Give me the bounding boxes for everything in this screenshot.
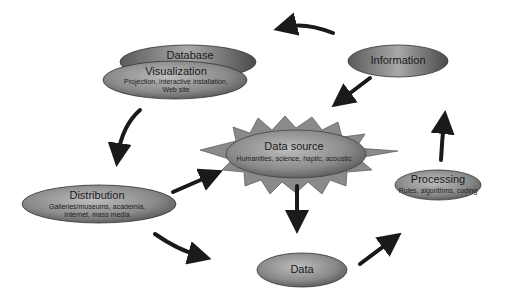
data-source-title: Data source [264, 141, 323, 153]
processing-title: Processing [411, 174, 465, 186]
arrow-distribution-to-data-source [173, 175, 212, 192]
arrow-data-to-processing [360, 240, 392, 264]
processing-subtitle: Rules, algorithms, coding [399, 187, 478, 194]
arrow-visualization-to-distribution [118, 110, 140, 155]
visualization-subtitle-line-2: Web site [162, 86, 189, 93]
distribution-subtitle-line-1: Galleries/museums, academia, [49, 203, 145, 210]
arrow-distribution-to-data [155, 234, 200, 256]
information-title: Information [370, 55, 425, 67]
arrow-information-to-data-source [341, 78, 370, 100]
data-cycle-diagram: Database Visualization Projection, inter… [0, 0, 520, 306]
arrow-information-to-database [285, 25, 333, 33]
distribution-subtitle-line-2: Internet, mass media [64, 211, 129, 218]
visualization-title: Visualization [145, 66, 207, 78]
distribution-title: Distribution [69, 190, 124, 202]
data-title: Data [290, 264, 313, 276]
visualization-subtitle-line-1: Projection, interactive installation, [124, 78, 228, 85]
data-source-subtitle: Humanities, science, haptic, acoustic [237, 155, 352, 162]
arrow-processing-to-information [441, 122, 444, 160]
database-title: Database [166, 50, 213, 62]
